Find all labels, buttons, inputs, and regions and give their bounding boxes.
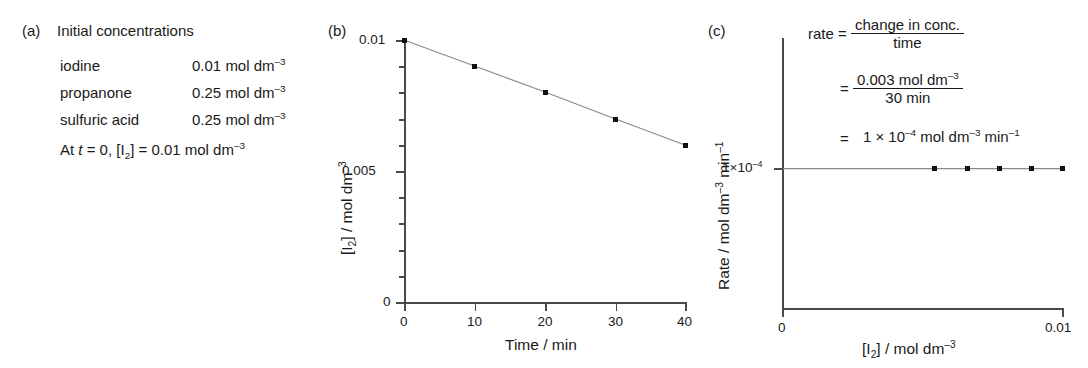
species-name-iodine: iodine (60, 57, 100, 74)
note-after: ] = 0.01 mol dm (130, 141, 234, 158)
panel-c-data-point (997, 166, 1002, 171)
panel-b-data-point (543, 90, 548, 95)
species-value-sulfuric-acid: 0.25 mol dm–3 (192, 111, 286, 128)
rate-result-exp1: –4 (905, 127, 916, 138)
note-prefix: At (60, 141, 78, 158)
panel-b-ylabel-exp: –3 (337, 161, 348, 172)
rate-result-unit: mol dm (916, 128, 969, 145)
panel-c-xlabel-close: ] / mol dm (876, 340, 944, 357)
rate-formula-equals-3: = (840, 130, 849, 147)
rate-formula-equals-2: = (840, 80, 849, 97)
rate-formula-denominator-2: 30 min (853, 88, 963, 106)
panel-c-y-axis-title: Rate / mol dm–3 min–1 (715, 141, 733, 290)
panel-b-concentration-vs-time-chart: (b) 0.01 0.005 0 0 10 20 30 40 [I2] / mo… (320, 0, 700, 368)
rate-formula-numerator-2: 0.003 mol dm–3 (853, 71, 963, 88)
sulfuric-acid-value-number: 0.25 (192, 111, 221, 128)
rate-formula-lead: rate = (808, 25, 847, 42)
sulfuric-acid-value-unit: mol dm (225, 111, 274, 128)
panel-b-data-point (472, 64, 477, 69)
panel-c-xlabel-open: [I (862, 340, 871, 357)
panel-a-tag: (a) (22, 22, 40, 39)
rate-result-unit2: min (980, 128, 1008, 145)
panel-c-data-point (965, 166, 970, 171)
panel-c-xticklabel-0.01: 0.01 (1045, 320, 1071, 335)
panel-c-data-point (932, 166, 937, 171)
iodine-value-unit: mol dm (225, 57, 274, 74)
panel-c-ylabel-exp1: –3 (714, 182, 725, 193)
rate-formula-fraction-1: change in conc. time (851, 16, 964, 52)
panel-c-rate-vs-concentration-chart: (c) 1×10–4 0 0.01 Rate / mol dm–3 min–1 … (700, 0, 1088, 368)
panel-c-data-point (1060, 166, 1065, 171)
panel-b-x-axis-title: Time / min (505, 336, 577, 354)
species-name-sulfuric-acid: sulfuric acid (60, 111, 139, 128)
panel-c-xticklabel-0: 0 (778, 320, 786, 335)
initial-condition-note: At t = 0, [I2] = 0.01 mol dm–3 (60, 141, 245, 158)
rate-formula-line-1: rate = change in conc. time (808, 16, 964, 52)
rate-result-exp3: –1 (1009, 127, 1020, 138)
sulfuric-acid-value-exponent: –3 (275, 110, 286, 121)
panel-a-title: Initial concentrations (57, 22, 194, 39)
panel-c-xtick-0 (782, 308, 784, 317)
rate-formula-numerator-1: change in conc. (851, 16, 964, 33)
rate-formula-denominator-1: time (851, 33, 964, 51)
rate-result-value: 1 × 10 (863, 128, 905, 145)
panel-b-data-point (402, 38, 407, 43)
species-name-propanone: propanone (60, 84, 132, 101)
panel-c-ylabel-mid: min (715, 153, 732, 182)
panel-b-ylabel-sub: 2 (347, 241, 358, 247)
panel-b-y-axis-title: [I2] / mol dm–3 (338, 161, 356, 255)
species-value-propanone: 0.25 mol dm–3 (192, 84, 286, 101)
rate-formula-num2-value: 0.003 mol dm (857, 71, 948, 88)
rate-formula-num2-exp: –3 (948, 70, 959, 81)
panel-c-x-axis-title: [I2] / mol dm–3 (862, 340, 956, 358)
panel-b-series-line (320, 0, 700, 368)
propanone-value-exponent: –3 (275, 83, 286, 94)
propanone-value-unit: mol dm (225, 84, 274, 101)
panel-c-xtick-0.01 (1062, 308, 1064, 317)
rate-formula-line-2: = 0.003 mol dm–3 30 min (840, 71, 963, 107)
panel-a-initial-concentrations: (a) Initial concentrations iodine 0.01 m… (0, 0, 320, 368)
panel-c-ylabel-text: Rate / mol dm (715, 194, 732, 290)
panel-b-ylabel-open: [I (338, 246, 355, 255)
rate-formula-fraction-2: 0.003 mol dm–3 30 min (853, 71, 963, 107)
rate-result-exp2: –3 (969, 127, 980, 138)
species-value-iodine: 0.01 mol dm–3 (192, 57, 286, 74)
panel-c-data-point (1029, 166, 1034, 171)
iodine-value-exponent: –3 (275, 56, 286, 67)
panel-c-xlabel-exp: –3 (944, 339, 955, 350)
panel-c-series-line (700, 0, 1088, 368)
propanone-value-number: 0.25 (192, 84, 221, 101)
panel-c-ylabel-exp2: –1 (714, 141, 725, 152)
rate-formula-line-3: = 1 × 10–4 mol dm–3 min–1 (840, 128, 1020, 147)
panel-b-data-point (613, 117, 618, 122)
note-exponent: –3 (234, 140, 245, 151)
rate-formula-result: 1 × 10–4 mol dm–3 min–1 (863, 128, 1020, 145)
panel-b-data-point (683, 143, 688, 148)
iodine-value-number: 0.01 (192, 57, 221, 74)
panel-b-ylabel-close: ] / mol dm (338, 173, 355, 241)
note-mid: = 0, [I (83, 141, 125, 158)
